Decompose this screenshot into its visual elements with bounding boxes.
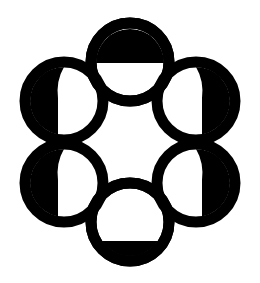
rosette-figure <box>0 0 260 283</box>
glyph-canvas: Six-circle rosette glyph <box>0 0 260 283</box>
